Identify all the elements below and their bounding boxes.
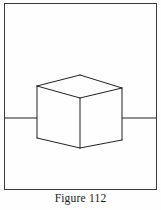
figure-caption: Figure 112 xyxy=(0,191,161,205)
figure-container: Figure 112 xyxy=(0,0,161,210)
figure-drawing-canvas xyxy=(0,0,161,210)
